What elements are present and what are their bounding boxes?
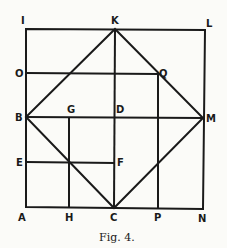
label-a: A xyxy=(18,212,26,223)
label-c: C xyxy=(110,212,117,223)
label-f: F xyxy=(117,157,124,168)
label-d: D xyxy=(116,104,124,115)
label-g: G xyxy=(67,104,75,115)
figure-caption: Fig. 4. xyxy=(99,231,135,244)
label-l: L xyxy=(206,18,213,29)
line-bm xyxy=(26,117,203,118)
label-p: P xyxy=(154,212,161,223)
label-i: I xyxy=(21,15,25,26)
label-e: E xyxy=(16,157,23,168)
label-k: K xyxy=(111,15,120,26)
line-oq xyxy=(26,73,158,74)
label-b: B xyxy=(15,112,23,123)
label-m: M xyxy=(206,113,216,124)
label-q: Q xyxy=(159,68,168,79)
label-o: O xyxy=(15,68,24,79)
label-n: N xyxy=(198,213,206,224)
line-ef xyxy=(26,162,115,163)
geometry-figure: I K L O Q B G D M E F A H C P N Fig. 4. xyxy=(0,0,227,248)
label-h: H xyxy=(65,212,73,223)
